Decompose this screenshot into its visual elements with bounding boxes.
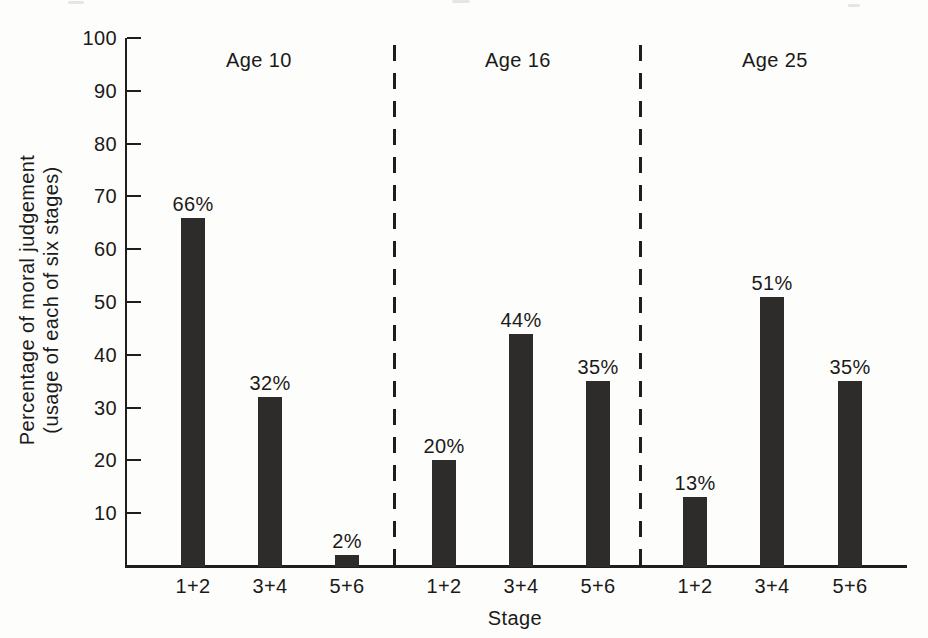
y-tick-label: 60 [47, 236, 117, 262]
bar [258, 397, 282, 567]
x-tick-label: 3+4 [486, 573, 556, 599]
age-group-label: Age 16 [448, 47, 588, 73]
bar-value-label: 44% [476, 307, 566, 333]
y-tick-label: 50 [47, 289, 117, 315]
age-group-label: Age 10 [189, 47, 329, 73]
y-tick [127, 248, 141, 250]
x-tick-label: 1+2 [409, 573, 479, 599]
bar-value-label: 13% [650, 470, 740, 496]
x-tick-label: 5+6 [563, 573, 633, 599]
y-tick [127, 301, 141, 303]
bar [838, 381, 862, 567]
bar [432, 460, 456, 567]
y-tick-label: 80 [47, 131, 117, 157]
bar [181, 218, 205, 567]
y-tick-label: 40 [47, 342, 117, 368]
bar-value-label: 20% [399, 433, 489, 459]
y-tick [127, 90, 141, 92]
y-tick [127, 195, 141, 197]
bar [586, 381, 610, 567]
bar-value-label: 35% [553, 354, 643, 380]
age-group-label: Age 25 [705, 47, 845, 73]
bar [509, 334, 533, 567]
y-tick [127, 459, 141, 461]
bar-value-label: 35% [805, 354, 895, 380]
y-tick [127, 407, 141, 409]
bar [683, 497, 707, 567]
x-tick-label: 1+2 [158, 573, 228, 599]
y-tick [127, 354, 141, 356]
y-tick-label: 100 [47, 25, 117, 51]
bar-value-label: 66% [148, 191, 238, 217]
x-tick-label: 5+6 [312, 573, 382, 599]
plot-area: 100908070605040302010Age 1066%1+232%3+42… [0, 0, 928, 638]
x-tick-label: 3+4 [235, 573, 305, 599]
y-tick-label: 30 [47, 395, 117, 421]
y-tick [127, 143, 141, 145]
x-tick-label: 1+2 [660, 573, 730, 599]
group-separator-line [393, 45, 396, 565]
y-tick-label: 70 [47, 183, 117, 209]
bar-value-label: 2% [302, 528, 392, 554]
bar [335, 555, 359, 567]
bar-value-label: 32% [225, 370, 315, 396]
x-tick-label: 3+4 [737, 573, 807, 599]
x-axis-title: Stage [435, 605, 595, 631]
y-tick-label: 10 [47, 500, 117, 526]
group-separator-line [639, 45, 642, 565]
bar-value-label: 51% [727, 270, 817, 296]
y-tick [127, 512, 141, 514]
bar [760, 297, 784, 567]
x-tick-label: 5+6 [815, 573, 885, 599]
moral-judgement-bar-chart: Percentage of moral judgement (usage of … [0, 0, 928, 638]
y-tick [127, 37, 141, 39]
y-tick-label: 90 [47, 78, 117, 104]
y-axis-line [125, 38, 127, 568]
y-tick-label: 20 [47, 447, 117, 473]
